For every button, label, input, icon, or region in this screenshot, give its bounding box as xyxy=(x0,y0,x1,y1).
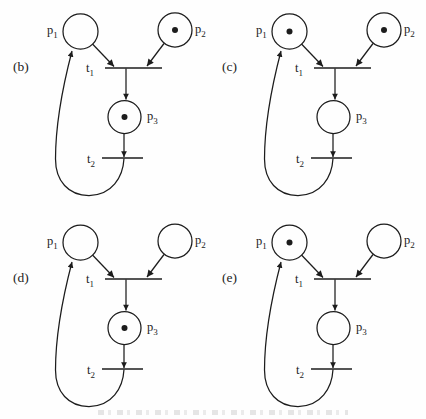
label-p3: p3 xyxy=(356,109,367,126)
label-p1: p1 xyxy=(47,234,58,251)
place-p2-circle xyxy=(158,224,192,258)
place-p3-circle xyxy=(317,312,350,345)
label-t1: t1 xyxy=(86,272,94,289)
label-t2: t2 xyxy=(87,363,95,380)
subfigure-b: (b)p1p2p3t1t2 xyxy=(13,13,206,196)
arc-p1-to-t1 xyxy=(93,255,115,278)
label-t1: t1 xyxy=(295,272,303,289)
token-p3 xyxy=(122,325,128,331)
label-p3: p3 xyxy=(147,109,158,126)
place-p1-circle xyxy=(63,14,98,49)
label-p2: p2 xyxy=(195,22,206,39)
petri-net-figure: (b)p1p2p3t1t2(c)p1p2p3t1t2(d)p1p2p3t1t2(… xyxy=(0,0,426,419)
cropped-caption-remnant xyxy=(98,410,348,415)
subfigure-label: (e) xyxy=(222,270,237,285)
subfigure-label: (b) xyxy=(13,59,29,74)
label-t1: t1 xyxy=(86,61,94,78)
label-t2: t2 xyxy=(296,152,304,169)
token-p3 xyxy=(122,114,128,120)
label-p1: p1 xyxy=(256,23,267,40)
arc-p1-to-t1 xyxy=(93,44,115,67)
subfigure-d: (d)p1p2p3t1t2 xyxy=(13,224,206,407)
arc-p1-to-t1 xyxy=(302,44,324,67)
arc-p2-to-t1 xyxy=(356,44,373,67)
token-p1 xyxy=(287,240,293,246)
token-p2 xyxy=(381,27,387,33)
arc-p1-to-t1 xyxy=(302,255,324,278)
subfigure-e: (e)p1p2p3t1t2 xyxy=(222,224,415,407)
place-p2-circle xyxy=(367,224,401,258)
petri-net-canvas: (b)p1p2p3t1t2(c)p1p2p3t1t2(d)p1p2p3t1t2(… xyxy=(0,0,426,419)
label-p2: p2 xyxy=(195,233,206,250)
label-p3: p3 xyxy=(356,320,367,337)
label-t1: t1 xyxy=(295,61,303,78)
token-p2 xyxy=(172,27,178,33)
subfigure-c: (c)p1p2p3t1t2 xyxy=(222,13,415,196)
label-t2: t2 xyxy=(87,152,95,169)
place-p3-circle xyxy=(317,101,350,134)
arc-p2-to-t1 xyxy=(147,44,164,67)
label-p2: p2 xyxy=(404,233,415,250)
label-t2: t2 xyxy=(296,363,304,380)
arc-p2-to-t1 xyxy=(356,255,373,278)
token-p1 xyxy=(287,29,293,35)
subfigure-label: (d) xyxy=(13,270,29,285)
label-p1: p1 xyxy=(47,23,58,40)
subfigure-label: (c) xyxy=(222,59,237,74)
label-p1: p1 xyxy=(256,234,267,251)
label-p3: p3 xyxy=(147,320,158,337)
arc-p2-to-t1 xyxy=(147,255,164,278)
place-p1-circle xyxy=(63,225,98,260)
label-p2: p2 xyxy=(404,22,415,39)
